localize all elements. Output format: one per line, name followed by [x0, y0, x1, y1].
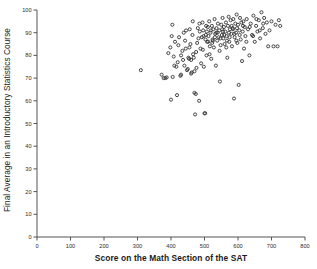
data-point: [202, 29, 205, 32]
data-point: [198, 30, 201, 33]
data-point: [196, 27, 199, 30]
data-point: [210, 24, 213, 27]
data-point: [196, 41, 199, 44]
data-point: [253, 40, 256, 43]
y-tick-label: 30: [25, 166, 31, 172]
data-point: [238, 33, 241, 36]
data-point: [216, 22, 219, 25]
data-point: [200, 62, 203, 65]
data-point: [218, 49, 221, 52]
data-point: [188, 46, 191, 49]
data-point: [274, 23, 277, 26]
data-point: [194, 113, 197, 116]
data-point: [226, 56, 229, 59]
axes: [37, 10, 305, 237]
x-axis-ticks: 0100200300400500600700800: [35, 237, 309, 249]
data-point: [248, 54, 251, 57]
data-point: [248, 25, 251, 28]
data-point: [263, 16, 266, 19]
data-point: [223, 43, 226, 46]
data-point: [189, 43, 192, 46]
data-point: [249, 22, 252, 25]
data-point: [183, 64, 186, 67]
y-tick-label: 70: [25, 75, 31, 81]
data-point: [208, 53, 211, 56]
data-point: [276, 45, 279, 48]
data-point: [175, 94, 178, 97]
y-tick-label: 10: [25, 211, 31, 217]
x-tick-label: 300: [133, 243, 142, 249]
data-point: [214, 64, 217, 67]
data-point: [233, 36, 236, 39]
x-axis-title: Score on the Math Section of the SAT: [37, 253, 305, 263]
data-point: [226, 24, 229, 27]
x-tick-label: 200: [99, 243, 108, 249]
y-tick-label: 0: [28, 234, 31, 240]
data-point: [213, 36, 216, 39]
data-point: [264, 32, 267, 35]
y-tick-label: 80: [25, 52, 31, 58]
data-point: [272, 45, 275, 48]
data-point: [235, 13, 238, 16]
data-point: [259, 37, 262, 40]
x-tick-label: 800: [300, 243, 309, 249]
data-point: [224, 21, 227, 24]
data-point: [139, 69, 142, 72]
data-point: [176, 61, 179, 64]
data-point: [171, 75, 174, 78]
data-point: [171, 23, 174, 26]
data-points: [139, 11, 281, 116]
data-point: [195, 66, 198, 69]
x-tick-label: 400: [166, 243, 175, 249]
data-point: [237, 83, 240, 86]
data-point: [230, 45, 233, 48]
data-point: [255, 24, 258, 27]
data-point: [239, 38, 242, 41]
data-point: [219, 44, 222, 47]
data-point: [191, 33, 194, 36]
data-point: [198, 99, 201, 102]
data-point: [235, 27, 238, 30]
data-point: [184, 47, 187, 50]
data-point: [241, 30, 244, 33]
data-point: [192, 53, 195, 56]
data-point: [244, 35, 247, 38]
y-tick-label: 20: [25, 189, 31, 195]
data-point: [205, 30, 208, 33]
data-point: [169, 98, 172, 101]
data-point: [188, 28, 191, 31]
data-point: [240, 60, 243, 63]
y-tick-label: 90: [25, 30, 31, 36]
data-point: [268, 29, 271, 32]
data-point: [202, 65, 205, 68]
data-point: [238, 16, 241, 19]
data-point: [245, 40, 248, 43]
data-point: [261, 27, 264, 30]
data-point: [197, 37, 200, 40]
data-point: [160, 73, 163, 76]
data-point: [213, 18, 216, 21]
data-point: [277, 19, 280, 22]
data-point: [180, 54, 183, 57]
data-point: [185, 29, 188, 32]
x-tick-label: 500: [200, 243, 209, 249]
data-point: [242, 47, 245, 50]
y-axis-ticks: 0102030405060708090100: [22, 7, 37, 240]
data-point: [210, 57, 213, 60]
data-point: [208, 20, 211, 23]
data-point: [192, 56, 195, 59]
data-point: [198, 22, 201, 25]
data-point: [260, 11, 263, 14]
x-tick-label: 100: [66, 243, 75, 249]
data-point: [212, 46, 215, 49]
plot-area: 0100200300400500600700800 01020304050607…: [0, 0, 317, 269]
data-point: [265, 21, 268, 24]
data-point: [182, 58, 185, 61]
data-point: [216, 39, 219, 42]
y-tick-label: 60: [25, 98, 31, 104]
data-point: [221, 16, 224, 19]
data-point: [228, 36, 231, 39]
data-point: [195, 50, 198, 53]
data-point: [170, 35, 173, 38]
data-point: [225, 46, 228, 49]
